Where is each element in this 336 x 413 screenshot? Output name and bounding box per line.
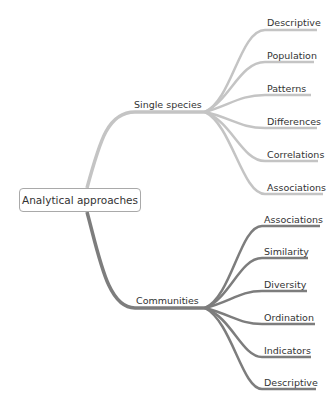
link-root-communities bbox=[87, 212, 205, 308]
node-comm-similarity[interactable]: Similarity bbox=[264, 247, 309, 257]
node-single-descriptive[interactable]: Descriptive bbox=[267, 18, 321, 28]
node-comm-indicators[interactable]: Indicators bbox=[264, 346, 311, 356]
node-comm-associations[interactable]: Associations bbox=[264, 215, 323, 225]
node-single-correlations[interactable]: Correlations bbox=[267, 150, 324, 160]
node-comm-descriptive[interactable]: Descriptive bbox=[264, 378, 318, 388]
node-single-differences[interactable]: Differences bbox=[267, 117, 321, 127]
root-label: Analytical approaches bbox=[22, 194, 138, 206]
node-comm-diversity[interactable]: Diversity bbox=[264, 280, 306, 290]
node-single-patterns[interactable]: Patterns bbox=[267, 84, 306, 94]
node-comm-ordination[interactable]: Ordination bbox=[264, 313, 314, 323]
root-node[interactable]: Analytical approaches bbox=[19, 188, 141, 212]
node-single-associations[interactable]: Associations bbox=[267, 183, 326, 193]
branch-communities[interactable]: Communities bbox=[136, 296, 199, 306]
branch-single-species[interactable]: Single species bbox=[134, 100, 202, 110]
node-single-population[interactable]: Population bbox=[267, 51, 317, 61]
link-root-single-species bbox=[87, 112, 205, 188]
